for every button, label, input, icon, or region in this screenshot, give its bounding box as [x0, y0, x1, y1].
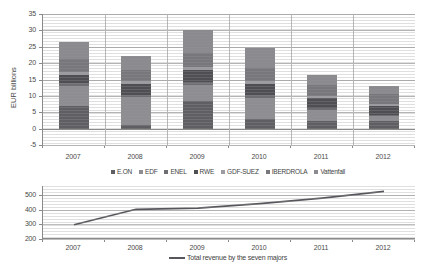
- bar-segment[interactable]: [59, 83, 89, 86]
- revenue-line: [74, 191, 384, 224]
- bar-segment[interactable]: [369, 121, 399, 128]
- bar-segment[interactable]: [121, 84, 151, 94]
- y-tick-label: 200: [12, 235, 36, 242]
- bar-segment[interactable]: [121, 97, 151, 125]
- x-tick-label: 2012: [363, 244, 403, 251]
- bar-segment[interactable]: [307, 98, 337, 108]
- bar-segment[interactable]: [183, 67, 213, 70]
- legend-line-icon: [169, 257, 185, 259]
- bar-segment[interactable]: [183, 85, 213, 101]
- y-tick-label: 35: [14, 10, 36, 17]
- stacked-bar[interactable]: [183, 14, 213, 145]
- legend-swatch-icon: [111, 170, 115, 174]
- bar-segment[interactable]: [245, 48, 275, 68]
- category-separator: [353, 14, 354, 145]
- x-tick-label: 2009: [177, 153, 217, 160]
- x-tick-label: 2010: [239, 153, 279, 160]
- stacked-bar[interactable]: [369, 14, 399, 145]
- bar-segment[interactable]: [369, 86, 399, 94]
- x-axis-line-line: [43, 238, 415, 239]
- bar-segment[interactable]: [307, 110, 337, 120]
- legend-swatch-icon: [194, 170, 198, 174]
- stacked-bar-chart-panel: EUR billions -505101520253035 2007200820…: [0, 0, 428, 162]
- legend-item[interactable]: RWE: [194, 168, 214, 175]
- bar-segment[interactable]: [59, 42, 89, 58]
- line-chart-panel: EUR billions 200300400500 20072008200920…: [0, 182, 428, 269]
- gridline: [43, 145, 415, 146]
- x-tick-label: 2011: [301, 244, 341, 251]
- bar-segment[interactable]: [307, 85, 337, 96]
- bar-segment[interactable]: [183, 101, 213, 128]
- bar-segment[interactable]: [183, 70, 213, 82]
- legend-swatch-icon: [221, 170, 225, 174]
- bar-segment[interactable]: [369, 116, 399, 121]
- y-tick-label: 15: [14, 76, 36, 83]
- bar-segment[interactable]: [121, 81, 151, 84]
- legend-label: GDF-SUEZ: [227, 168, 259, 175]
- stacked-bar[interactable]: [307, 14, 337, 145]
- y-tick-label: 400: [12, 206, 36, 213]
- legend-item[interactable]: Total revenue by the seven majors: [169, 254, 287, 261]
- stacked-bar[interactable]: [59, 14, 89, 145]
- x-tick-label: 2012: [363, 153, 403, 160]
- bar-segment[interactable]: [121, 125, 151, 128]
- bar-segment[interactable]: [369, 94, 399, 104]
- legend-swatch-icon: [314, 170, 318, 174]
- stacked-bar[interactable]: [121, 14, 151, 145]
- y-tick-label: 20: [14, 59, 36, 66]
- revenue-line-series: [43, 186, 415, 239]
- legend-item[interactable]: Vattenfall: [314, 168, 345, 175]
- bar-segment[interactable]: [369, 115, 399, 117]
- legend-line: Total revenue by the seven majors: [42, 252, 414, 263]
- legend-item[interactable]: IBERDROLA: [266, 168, 308, 175]
- line-plot-area: [42, 186, 415, 239]
- bar-segment[interactable]: [121, 56, 151, 70]
- bar-segment[interactable]: [59, 106, 89, 129]
- legend-label: E.ON: [117, 168, 132, 175]
- legend-label: EDF: [145, 168, 157, 175]
- legend-label: IBERDROLA: [272, 168, 308, 175]
- bar-segment[interactable]: [183, 30, 213, 53]
- bar-segment[interactable]: [121, 70, 151, 81]
- legend-label: RWE: [200, 168, 214, 175]
- bar-segment[interactable]: [59, 75, 89, 83]
- bar-segment[interactable]: [245, 98, 275, 119]
- category-separator: [291, 14, 292, 145]
- legend-item[interactable]: ENEL: [164, 168, 186, 175]
- bar-segment[interactable]: [183, 53, 213, 66]
- legend-swatch-icon: [164, 170, 168, 174]
- x-tick-label: 2008: [115, 244, 155, 251]
- figure: EUR billions -505101520253035 2007200820…: [0, 0, 428, 269]
- legend-label: Vattenfall: [320, 168, 345, 175]
- y-tick-label: 500: [12, 191, 36, 198]
- stacked-bar[interactable]: [245, 14, 275, 145]
- bar-segment[interactable]: [307, 108, 337, 110]
- legend-item[interactable]: EDF: [139, 168, 157, 175]
- bar-segment[interactable]: [369, 106, 399, 114]
- x-tick-label: 2008: [115, 153, 155, 160]
- bar-segment[interactable]: [245, 119, 275, 129]
- legend-item[interactable]: GDF-SUEZ: [221, 168, 259, 175]
- y-tick-label: 10: [14, 92, 36, 99]
- bar-segment[interactable]: [59, 86, 89, 105]
- bar-segment[interactable]: [245, 84, 275, 95]
- legend-item[interactable]: E.ON: [111, 168, 132, 175]
- legend-label: ENEL: [170, 168, 186, 175]
- bar-segment[interactable]: [307, 75, 337, 85]
- legend-bars: E.ONEDFENELRWEGDF-SUEZIBERDROLAVattenfal…: [42, 166, 414, 177]
- bars-plot-area: [42, 14, 415, 145]
- bar-segment[interactable]: [245, 95, 275, 97]
- bar-segment[interactable]: [245, 68, 275, 81]
- bar-segment[interactable]: [307, 96, 337, 99]
- bar-segment[interactable]: [121, 95, 151, 97]
- legend-swatch-icon: [139, 170, 143, 174]
- bar-segment[interactable]: [59, 72, 89, 75]
- bar-segment[interactable]: [245, 81, 275, 84]
- bar-segment[interactable]: [59, 59, 89, 72]
- y-tick-label: 300: [12, 220, 36, 227]
- category-separator: [105, 14, 106, 145]
- bar-segment[interactable]: [369, 104, 399, 106]
- bar-segment[interactable]: [183, 82, 213, 85]
- category-separator: [229, 14, 230, 145]
- bar-segment[interactable]: [307, 121, 337, 129]
